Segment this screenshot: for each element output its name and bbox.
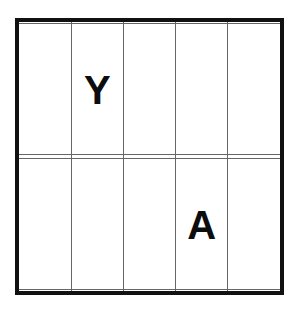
grid-row: Y [19, 24, 280, 155]
grid-cell-r5-c1[interactable] [19, 289, 71, 291]
grid-body: YA [19, 22, 280, 291]
letter-grid: YA [19, 22, 280, 291]
grid-cell-r2-c3[interactable] [123, 24, 175, 155]
grid-cell-r4-c2[interactable] [71, 158, 123, 289]
grid-cell-r5-c2[interactable] [71, 289, 123, 291]
grid-cell-r2-c2[interactable]: Y [71, 24, 123, 155]
grid-cell-r5-c5[interactable] [228, 289, 280, 291]
cell-letter-A: A [176, 205, 227, 245]
grid-cell-r4-c1[interactable] [19, 158, 71, 289]
cell-letter-Y: Y [72, 70, 123, 110]
grid-cell-r4-c3[interactable] [123, 158, 175, 289]
grid-row: A [19, 158, 280, 289]
grid-cell-r2-c1[interactable] [19, 24, 71, 155]
grid-cell-r4-c5[interactable] [228, 158, 280, 289]
grid-cell-r2-c5[interactable] [228, 24, 280, 155]
grid-cell-r4-c4[interactable]: A [176, 158, 228, 289]
grid-row [19, 289, 280, 291]
grid-container: YA [15, 18, 284, 295]
grid-cell-r5-c4[interactable] [176, 289, 228, 291]
grid-cell-r5-c3[interactable] [123, 289, 175, 291]
grid-cell-r2-c4[interactable] [176, 24, 228, 155]
